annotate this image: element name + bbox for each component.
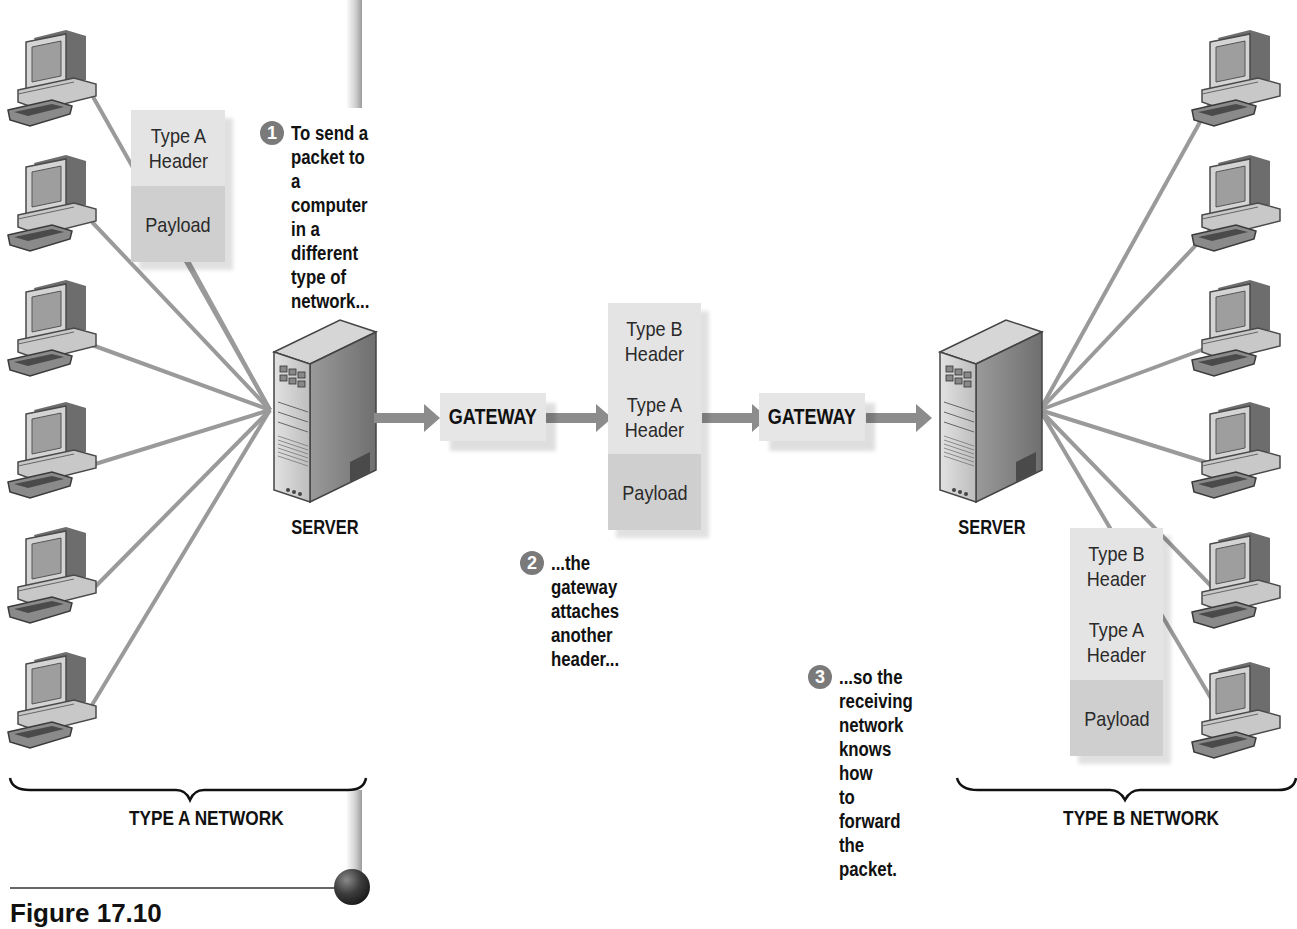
step-badge: 2 bbox=[520, 551, 544, 575]
computer-icon bbox=[8, 402, 96, 498]
packet-header-type-b: Type B Header bbox=[1070, 528, 1163, 604]
left-server-icon bbox=[274, 320, 376, 502]
type-a-network-label: TYPE A NETWORK bbox=[112, 806, 301, 830]
decorative-ball bbox=[334, 869, 370, 905]
packet-header-type-b: Type B Header bbox=[608, 303, 701, 379]
type-a-network-brace bbox=[10, 778, 366, 800]
computer-icon bbox=[1192, 662, 1280, 758]
right-server-label: SERVER bbox=[951, 516, 1033, 539]
type-b-network-brace bbox=[957, 778, 1296, 800]
right-computers bbox=[1192, 30, 1280, 758]
gateway-1: GATEWAY bbox=[440, 393, 546, 441]
packet-payload: Payload bbox=[1070, 680, 1163, 756]
computer-icon bbox=[1192, 280, 1280, 376]
step-badge: 3 bbox=[808, 665, 832, 689]
page-rule-bar-top bbox=[346, 0, 362, 108]
step-badge: 1 bbox=[260, 121, 284, 145]
arrow-icon bbox=[546, 404, 612, 432]
computer-icon bbox=[8, 155, 96, 251]
step-text: ...the gateway attaches another header..… bbox=[551, 551, 619, 671]
gateway-2: GATEWAY bbox=[759, 393, 865, 441]
figure-caption: Figure 17.10 bbox=[10, 898, 162, 929]
packet-payload: Payload bbox=[131, 186, 225, 262]
packet-encapsulated: Type B Header Type A Header Payload bbox=[608, 303, 701, 530]
computer-icon bbox=[8, 652, 96, 748]
right-server-icon bbox=[940, 320, 1042, 502]
packet-payload: Payload bbox=[608, 454, 701, 530]
left-server-label: SERVER bbox=[284, 516, 366, 539]
type-b-network-label: TYPE B NETWORK bbox=[1046, 806, 1236, 830]
computer-icon bbox=[8, 30, 96, 126]
packet-original: Type A Header Payload bbox=[131, 110, 225, 262]
step-text: To send a packet to a computer in a diff… bbox=[291, 121, 369, 313]
computer-icon bbox=[1192, 402, 1280, 498]
computer-icon bbox=[8, 527, 96, 623]
computer-icon bbox=[8, 280, 96, 376]
computer-icon bbox=[1192, 30, 1280, 126]
packet-header-type-a: Type A Header bbox=[608, 379, 701, 454]
step-text: ...so the receiving network knows how to… bbox=[839, 665, 913, 881]
packet-header-type-a: Type A Header bbox=[131, 110, 225, 186]
arrow-icon bbox=[374, 404, 440, 432]
left-computers bbox=[8, 30, 96, 748]
packet-header-type-a: Type A Header bbox=[1070, 604, 1163, 680]
computer-icon bbox=[1192, 155, 1280, 251]
packet-received: Type B Header Type A Header Payload bbox=[1070, 528, 1163, 756]
arrow-icon bbox=[866, 404, 932, 432]
